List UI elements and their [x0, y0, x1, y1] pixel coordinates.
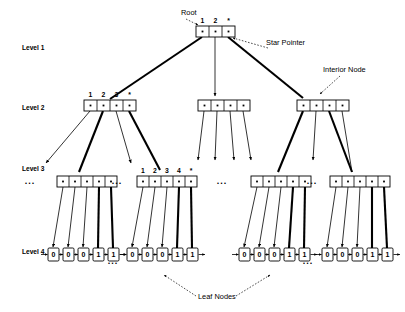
interior-node-l2-a[interactable]: 123* [84, 91, 136, 111]
interior-node-l3-b-star-key: * [190, 167, 193, 174]
edges-l3b-to-leaves [132, 187, 192, 248]
interior-node-l3-d-pointer-cell-3[interactable] [359, 181, 361, 183]
edge-l3a-c2 [68, 187, 75, 247]
leaf-group-d-leaf-value-5: 1 [386, 251, 390, 258]
interior-node-l2-b-pointer-cell-3[interactable] [230, 105, 232, 107]
star-pointer-label: Star Pointer [266, 38, 306, 47]
edge-l2b-c3 [230, 111, 234, 160]
interior-node-label: Interior Node [323, 65, 366, 74]
interior-node-l2-a-pointer-cell-2[interactable] [103, 105, 105, 107]
level-labels: Level 1 Level 2 Level 3 Level 4 [22, 44, 45, 255]
interior-node-l2-b-pointer-cell-1[interactable] [204, 105, 206, 107]
interior-node-l3-d-pointer-cell-1[interactable] [335, 181, 337, 183]
root-node-key-1: 1 [201, 17, 205, 24]
interior-node-l3-d-pointer-cell-4[interactable] [371, 181, 373, 183]
root-node-pointer-cell-2[interactable] [215, 31, 217, 33]
leaf-group-d-leaf-value-3: 0 [356, 251, 360, 258]
interior-node-l3-b-pointer-cell-5[interactable] [190, 181, 192, 183]
edge-l3d-c2 [342, 187, 348, 247]
interior-node-l3-c-pointer-cell-3[interactable] [280, 181, 282, 183]
leaf-group-b-leaf-value-1: 0 [131, 251, 135, 258]
interior-node-l3-d-pointer-cell-5[interactable] [383, 181, 385, 183]
interior-node-l2-a-key-3: 3 [115, 91, 119, 98]
ellipsis-level3-mid-right: ... [307, 176, 318, 186]
interior-node-l2-a-pointer-cell-3[interactable] [116, 105, 118, 107]
leaf-group-c-leaf-value-4: 1 [288, 251, 292, 258]
leaf-group-b: 00011 [120, 248, 205, 261]
leaf-nodes-label: Leaf Nodes [198, 292, 236, 301]
leaf-group-a-leaf-value-1: 0 [52, 251, 56, 258]
edge-l3b-c5 [191, 187, 192, 248]
interior-node-l2-a-key-2: 2 [102, 91, 106, 98]
root-label: Root [181, 8, 197, 17]
ellipsis-level3-left: ... [25, 176, 36, 186]
root-node-pointer-cell-1[interactable] [202, 31, 204, 33]
edge-l3c-c2 [259, 187, 269, 247]
interior-node-l3-d[interactable] [330, 176, 390, 187]
interior-node-l2-b-pointer-cell-2[interactable] [217, 105, 219, 107]
interior-node-l2-b-pointer-cell-4[interactable] [243, 105, 245, 107]
level-2-label: Level 2 [22, 104, 45, 111]
level-3-label: Level 3 [22, 165, 45, 172]
edges-l2b-dangling [198, 111, 251, 160]
edge-l3a-c3 [83, 187, 87, 247]
nodes-layer: 12*123*1234* [57, 17, 390, 187]
interior-node-l3-b-pointer-cell-2[interactable] [154, 181, 156, 183]
leaf-group-d: 00011 [315, 248, 400, 261]
interior-node-l3-b-pointer-cell-4[interactable] [178, 181, 180, 183]
interior-node-l3-a-pointer-cell-3[interactable] [86, 181, 88, 183]
root-node-pointer-cell-3[interactable] [228, 31, 230, 33]
leaf-group-a-leaf-value-2: 0 [67, 251, 71, 258]
interior-node-l2-a-pointer-cell-4[interactable] [129, 105, 131, 107]
leaf-nodes-layer: 00011000110001100011 [41, 248, 400, 261]
interior-node-l2-c[interactable] [297, 100, 349, 111]
interior-node-l3-b-pointer-cell-1[interactable] [142, 181, 144, 183]
interior-node-l3-b-key-4: 4 [177, 167, 181, 174]
edge-l3a-c5 [111, 187, 113, 248]
interior-node-l3-a-pointer-cell-2[interactable] [74, 181, 76, 183]
edge-l3a-c4 [98, 187, 99, 248]
interior-node-l3-c-pointer-cell-2[interactable] [268, 181, 270, 183]
leaf-group-b-leaf-value-3: 0 [161, 251, 165, 258]
interior-node-l3-c-pointer-cell-4[interactable] [292, 181, 294, 183]
leaf-group-d-leaf-value-1: 0 [326, 251, 330, 258]
interior-node-l3-c-pointer-cell-1[interactable] [256, 181, 258, 183]
interior-node-l3-c-pointer-cell-5[interactable] [304, 181, 306, 183]
interior-node-l2-a-star-key: * [128, 91, 131, 98]
edge-l3c-c5 [304, 187, 305, 248]
leaf-group-a-leaf-value-4: 1 [97, 251, 101, 258]
interior-node-l2-a-key-1: 1 [89, 91, 93, 98]
edge-l2b-c2 [215, 111, 217, 160]
interior-node-l3-a-pointer-cell-1[interactable] [62, 181, 64, 183]
edge-l2a-c3 [116, 111, 131, 163]
interior-node-l2-c-pointer-cell-1[interactable] [303, 105, 305, 107]
interior-node-l3-a[interactable] [57, 176, 117, 187]
edges-l2c-to-level3 [278, 111, 352, 172]
interior-node-l3-b-key-1: 1 [141, 167, 145, 174]
edges-l3c-to-leaves [244, 187, 305, 248]
edge-l3c-c3 [274, 187, 281, 247]
interior-node-l3-a-pointer-cell-4[interactable] [98, 181, 100, 183]
interior-node-l3-c[interactable] [251, 176, 311, 187]
edge-l2b-c4 [243, 111, 251, 160]
interior-node-l3-b-pointer-cell-3[interactable] [166, 181, 168, 183]
leaf-group-c-leaf-value-1: 0 [243, 251, 247, 258]
root-node[interactable]: 12* [196, 17, 235, 37]
leaf-group-b-leaf-value-5: 1 [191, 251, 195, 258]
root-node-key-2: 2 [214, 17, 218, 24]
leaf-group-b-leaf-value-2: 0 [146, 251, 150, 258]
edges-l3d-to-leaves [327, 187, 387, 248]
leaf-group-b-leaf-value-4: 1 [176, 251, 180, 258]
interior-node-l2-c-pointer-cell-3[interactable] [329, 105, 331, 107]
interior-node-l3-d-pointer-cell-2[interactable] [347, 181, 349, 183]
root-callout-arrow [186, 19, 198, 25]
interior-node-l2-c-pointer-cell-2[interactable] [316, 105, 318, 107]
interior-node-l2-a-pointer-cell-1[interactable] [90, 105, 92, 107]
leaf-group-a-leaf-value-3: 0 [82, 251, 86, 258]
edge-l3d-c1 [327, 187, 336, 247]
edge-l3b-c4 [177, 187, 179, 248]
interior-node-l2-b[interactable] [198, 100, 250, 111]
interior-node-l3-b[interactable]: 1234* [137, 167, 197, 187]
interior-node-l2-c-pointer-cell-4[interactable] [342, 105, 344, 107]
edge-l3b-c2 [147, 187, 155, 247]
